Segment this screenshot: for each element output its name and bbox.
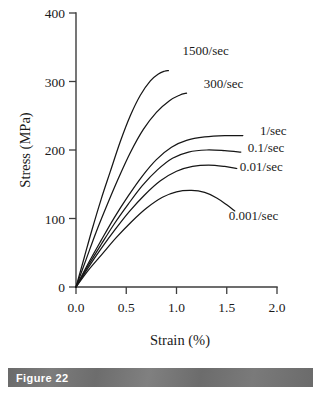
x-tick-label: 1.0: [168, 300, 185, 315]
curve-0-1-sec: [76, 150, 241, 287]
series-label-0-1-sec: 0.1/sec: [248, 140, 285, 155]
series-label-0-01-sec: 0.01/sec: [240, 159, 283, 174]
x-tick-label: 0.0: [68, 300, 85, 315]
x-tick-label: 1.5: [218, 300, 235, 315]
series-label-1500-sec: 1500/sec: [183, 43, 229, 58]
y-axis-tick-labels: 0100200300400: [45, 6, 66, 295]
y-tick-label: 100: [45, 212, 66, 227]
chart-axes: [76, 13, 277, 287]
y-tick-label: 300: [45, 75, 66, 90]
curve-1-sec: [76, 136, 243, 287]
x-tick-label: 2.0: [269, 300, 286, 315]
figure-caption-bar: Figure 22: [8, 368, 313, 387]
series-label-300-sec: 300/sec: [204, 76, 244, 91]
y-tick-label: 200: [45, 143, 66, 158]
y-axis-title: Stress (MPa): [17, 112, 34, 187]
x-tick-label: 0.5: [118, 300, 135, 315]
data-curves: [76, 71, 243, 287]
series-labels: 1500/sec300/sec1/sec0.1/sec0.01/sec0.001…: [183, 43, 287, 223]
y-tick-label: 400: [45, 6, 66, 21]
y-axis-ticks: [69, 13, 76, 287]
figure-caption-label: Figure 22: [8, 372, 69, 384]
x-axis-tick-labels: 0.00.51.01.52.0: [68, 300, 286, 315]
series-label-0-001-sec: 0.001/sec: [229, 208, 279, 223]
x-axis-ticks: [76, 287, 277, 294]
curve-1500-sec: [76, 71, 168, 287]
stress-strain-chart: 0100200300400 0.00.51.01.52.0 1500/sec30…: [0, 0, 321, 360]
x-axis-title: Strain (%): [150, 332, 210, 349]
figure-container: 0100200300400 0.00.51.01.52.0 1500/sec30…: [0, 0, 321, 393]
series-label-1-sec: 1/sec: [260, 123, 287, 138]
y-tick-label: 0: [58, 280, 65, 295]
curve-0-01-sec: [76, 165, 237, 287]
